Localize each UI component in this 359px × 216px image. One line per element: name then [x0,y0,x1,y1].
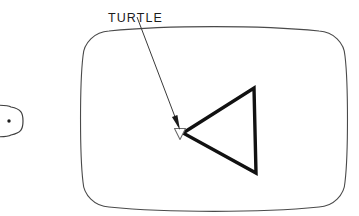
adjacent-screen-fragment [0,105,23,137]
turtle-graphics-figure: TURTLE [0,0,359,216]
figure-canvas: TURTLE [0,0,359,216]
crt-screen [81,27,348,212]
annotation-label-turtle: TURTLE [108,11,163,25]
adjacent-screen-outline [0,105,23,137]
adjacent-screen-dot [7,119,10,122]
